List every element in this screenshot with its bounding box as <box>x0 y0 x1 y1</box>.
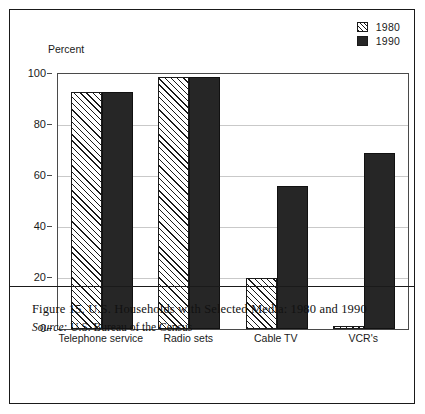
caption-title: Figure 15. U.S. Households with Selected… <box>32 300 398 318</box>
y-tick-label: 40 <box>34 220 46 232</box>
chart-legend: 1980 1990 <box>357 20 400 48</box>
y-tick-label: 80 <box>34 118 46 130</box>
figure-caption: Figure 15. U.S. Households with Selected… <box>32 300 398 336</box>
legend-label-1990: 1990 <box>376 34 400 48</box>
plot-area <box>57 73 409 330</box>
y-tick-mark <box>47 73 52 74</box>
y-tick-label: 20 <box>34 271 46 283</box>
bar-1990-telephone-service <box>102 92 133 329</box>
caption-divider <box>10 286 414 287</box>
hatched-square-icon <box>357 22 368 32</box>
caption-source-label: Source: <box>32 321 67 333</box>
legend-label-1980: 1980 <box>376 20 400 34</box>
solid-square-icon <box>357 36 368 46</box>
figure-frame: 1980 1990 Percent 020406080100 Telephone… <box>9 9 415 404</box>
y-tick-label: 100 <box>28 67 46 79</box>
bar-1990-radio-sets <box>189 77 220 329</box>
y-tick-mark <box>47 277 52 278</box>
bar-1980-radio-sets <box>158 77 189 329</box>
bars-layer <box>58 74 408 329</box>
y-tick-label: 60 <box>34 169 46 181</box>
caption-source: Source: U.S. Bureau of the Census <box>32 319 398 336</box>
y-axis-title: Percent <box>48 43 84 55</box>
bar-1980-telephone-service <box>71 92 102 329</box>
caption-source-text: U.S. Bureau of the Census <box>70 321 192 333</box>
y-tick-mark <box>47 226 52 227</box>
legend-entry-1990: 1990 <box>357 34 400 48</box>
y-axis-tick-labels: 020406080100 <box>10 73 52 328</box>
y-tick-mark <box>47 175 52 176</box>
y-tick-mark <box>47 124 52 125</box>
legend-entry-1980: 1980 <box>357 20 400 34</box>
